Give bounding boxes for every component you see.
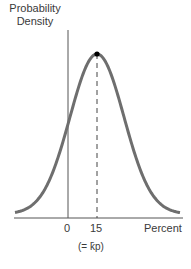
x-axis-label: Percent: [144, 222, 182, 234]
mean-annotation: (= k̄p): [78, 241, 104, 252]
x-tick-0: 0: [64, 222, 70, 234]
x-tick-15: 15: [90, 222, 102, 234]
density-curve: [15, 54, 180, 213]
peak-marker: [94, 51, 99, 56]
